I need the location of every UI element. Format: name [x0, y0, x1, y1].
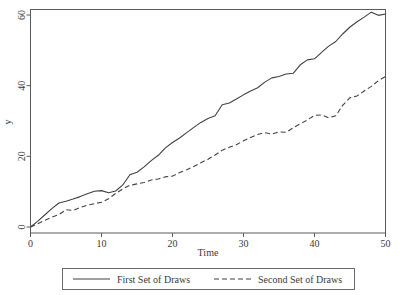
- x-tick-label-4: 40: [310, 238, 320, 249]
- chart-svg: 0204060 01020304050 y Time First Set of …: [0, 0, 400, 295]
- chart-legend: First Set of Draws Second Set of Draws: [63, 269, 355, 290]
- x-tick-label-3: 30: [239, 238, 249, 249]
- legend-label-first-set-of-draws: First Set of Draws: [117, 274, 190, 285]
- y-tick-label-1: 20: [16, 151, 27, 161]
- legend-label-second-set-of-draws: Second Set of Draws: [258, 274, 342, 285]
- y-tick-label-2: 40: [16, 81, 27, 91]
- chart-figure: 0204060 01020304050 y Time First Set of …: [0, 0, 400, 295]
- y-axis-title: y: [2, 120, 13, 125]
- x-tick-label-0: 0: [28, 238, 33, 249]
- x-axis-title: Time: [198, 247, 219, 258]
- x-tick-label-1: 10: [97, 238, 107, 249]
- y-tick-label-0: 0: [16, 225, 27, 230]
- x-tick-label-5: 50: [381, 238, 391, 249]
- x-tick-label-2: 20: [168, 238, 178, 249]
- y-tick-label-3: 60: [16, 10, 27, 20]
